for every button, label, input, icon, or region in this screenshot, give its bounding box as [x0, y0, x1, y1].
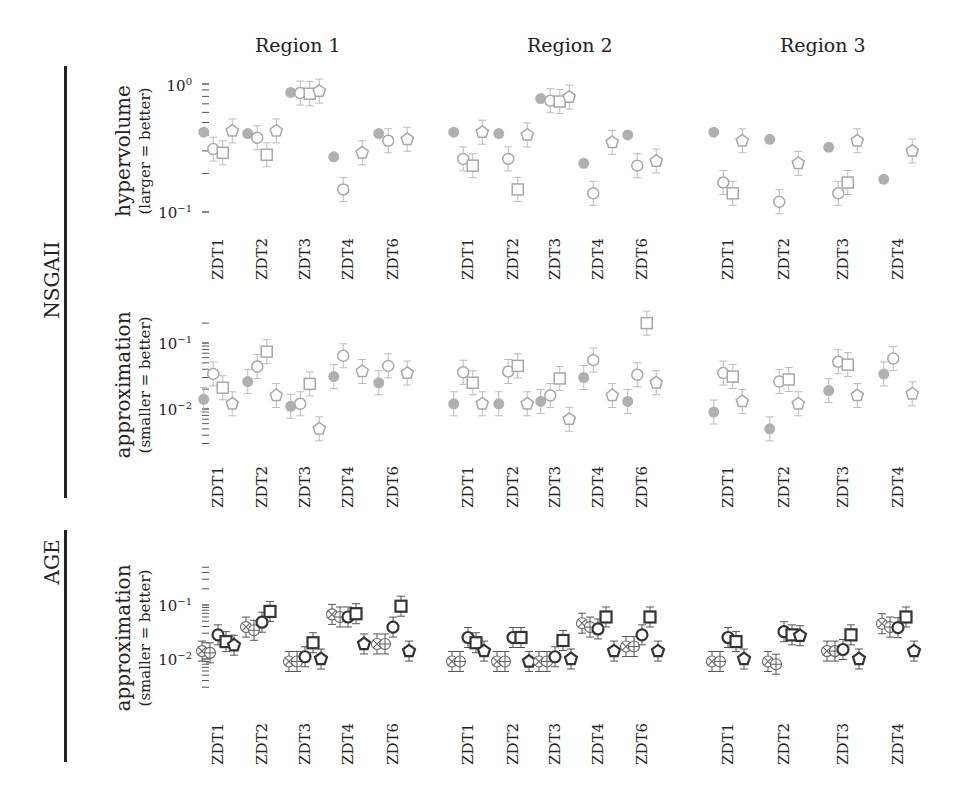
x-category-label: ZDT4	[339, 466, 357, 508]
marker-circle	[252, 361, 263, 372]
marker-filled-circle	[493, 128, 504, 139]
x-category-label: ZDT4	[889, 466, 907, 508]
marker-circle	[383, 360, 394, 371]
x-category-label: ZDT3	[296, 466, 314, 508]
x-category-label: ZDT4	[339, 238, 357, 280]
marker-pentagon	[476, 126, 488, 137]
marker-circle	[252, 132, 263, 143]
marker-square	[217, 382, 228, 393]
x-category-label: ZDT4	[589, 238, 607, 280]
y-axis-ticks	[202, 567, 209, 687]
marker-square	[512, 360, 523, 371]
x-category-label: ZDT1	[209, 723, 227, 765]
x-category-label: ZDT4	[589, 466, 607, 508]
marker-pentagon	[906, 145, 918, 156]
marker-pentagon	[563, 91, 575, 102]
marker-filled-circle	[878, 368, 889, 379]
marker-filled-circle	[823, 385, 834, 396]
marker-square	[727, 188, 738, 199]
panel-2-0: ZDT1ZDT2ZDT3ZDT4ZDT6	[197, 596, 416, 765]
marker-circle	[383, 135, 394, 146]
marker-pentagon	[313, 85, 325, 96]
marker-pentagon	[608, 645, 620, 656]
y-axis-ticks	[202, 323, 209, 443]
marker-circle	[893, 622, 904, 633]
scatter-figure: ZDT1ZDT2ZDT3ZDT4ZDT6ZDT1ZDT2ZDT3ZDT4ZDT6…	[0, 0, 966, 788]
marker-pentagon	[521, 397, 533, 409]
x-category-label: ZDT1	[719, 723, 737, 765]
marker-filled-circle	[878, 174, 889, 185]
marker-pentagon	[521, 129, 533, 141]
marker-square	[842, 177, 853, 188]
panel-0-2: ZDT1ZDT2ZDT3ZDT4	[708, 127, 918, 280]
marker-pentagon	[226, 397, 238, 409]
marker-pentagon	[356, 147, 368, 158]
marker-circle	[338, 350, 349, 361]
marker-pentagon	[270, 389, 282, 400]
marker-pentagon	[736, 395, 748, 406]
x-category-label: ZDT1	[209, 466, 227, 508]
marker-square	[304, 378, 315, 389]
marker-circle	[838, 644, 849, 655]
marker-square	[217, 147, 228, 158]
marker-filled-circle	[622, 129, 633, 140]
x-category-label: ZDT2	[504, 723, 522, 765]
marker-circle	[588, 355, 599, 366]
marker-square	[261, 346, 272, 357]
marker-circle	[718, 177, 729, 188]
marker-square	[261, 149, 272, 160]
marker-circle	[833, 188, 844, 199]
marker-square	[731, 636, 742, 647]
x-category-label: ZDT3	[546, 466, 564, 508]
marker-pentagon	[738, 653, 750, 664]
marker-pentagon	[792, 397, 804, 409]
marker-square	[901, 611, 912, 622]
x-category-label: ZDT1	[459, 238, 477, 280]
marker-circle	[295, 398, 306, 409]
marker-pentagon	[476, 397, 488, 409]
x-category-label: ZDT4	[589, 723, 607, 765]
marker-filled-circle	[242, 376, 253, 387]
marker-pentagon	[851, 389, 863, 400]
marker-square	[783, 374, 794, 385]
marker-circle-plus	[205, 647, 216, 658]
marker-circle	[257, 617, 268, 628]
x-category-label: ZDT1	[719, 466, 737, 508]
x-category-label: ZDT1	[459, 723, 477, 765]
marker-pentagon	[606, 136, 618, 148]
marker-circle-plus	[380, 638, 391, 649]
x-category-label: ZDT2	[253, 238, 271, 280]
x-category-label: ZDT6	[384, 466, 402, 508]
panel-2-2: ZDT1ZDT2ZDT3ZDT4	[707, 607, 921, 765]
x-category-label: ZDT6	[633, 723, 651, 765]
marker-circle	[338, 184, 349, 195]
marker-circle	[632, 160, 643, 171]
marker-circle	[503, 153, 514, 164]
marker-pentagon	[853, 653, 865, 664]
marker-filled-circle	[328, 371, 339, 382]
marker-filled-circle	[198, 127, 209, 138]
x-category-label: ZDT2	[775, 466, 793, 508]
marker-square	[351, 608, 362, 619]
marker-circle	[550, 651, 561, 662]
marker-pentagon	[226, 125, 238, 136]
x-category-label: ZDT3	[296, 723, 314, 765]
marker-square	[467, 160, 478, 171]
marker-pentagon	[403, 645, 415, 656]
marker-square	[842, 359, 853, 370]
marker-pentagon	[565, 653, 577, 664]
marker-filled-circle	[708, 407, 719, 418]
marker-circle-plus	[455, 656, 466, 667]
marker-filled-circle	[448, 398, 459, 409]
marker-square	[308, 637, 319, 648]
marker-square	[558, 635, 569, 646]
marker-pentagon	[908, 645, 920, 656]
x-category-label: ZDT3	[834, 723, 852, 765]
marker-filled-circle	[578, 158, 589, 169]
panel-0-0: ZDT1ZDT2ZDT3ZDT4ZDT6	[198, 79, 413, 280]
marker-filled-circle	[622, 396, 633, 407]
marker-pentagon	[650, 155, 662, 167]
marker-square	[512, 184, 523, 195]
marker-circle	[208, 368, 219, 379]
x-category-label: ZDT2	[504, 238, 522, 280]
